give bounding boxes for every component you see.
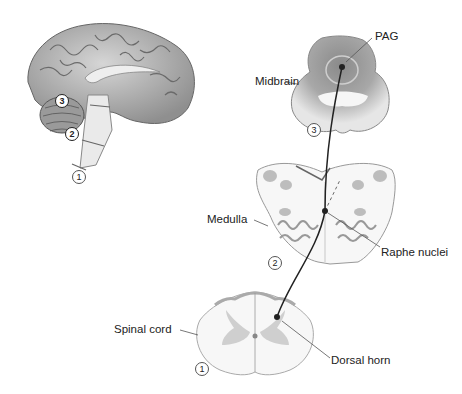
- brain-marker-1: 1: [72, 170, 86, 184]
- brain-sagittal-illustration: [28, 24, 195, 170]
- medulla-label: Medulla: [207, 214, 247, 226]
- dorsal-horn-label: Dorsal horn: [331, 355, 390, 367]
- spinal-cord-section-illustration: [197, 292, 314, 375]
- medulla-section-number: 2: [268, 256, 282, 270]
- midbrain-label: Midbrain: [255, 76, 299, 88]
- pag-label: PAG: [375, 31, 398, 43]
- brain-marker-2: 2: [65, 127, 79, 141]
- pain-modulation-diagram: 3 2 1 PAG Midbrain 3 Medulla Raphe nucle…: [0, 0, 462, 394]
- spinal-cord-label: Spinal cord: [114, 324, 172, 336]
- raphe-nuclei-label: Raphe nuclei: [381, 247, 448, 259]
- spinal-cord-section-number: 1: [195, 362, 209, 376]
- midbrain-section-illustration: [291, 36, 389, 133]
- midbrain-section-number: 3: [307, 123, 321, 137]
- brain-marker-3: 3: [55, 94, 69, 108]
